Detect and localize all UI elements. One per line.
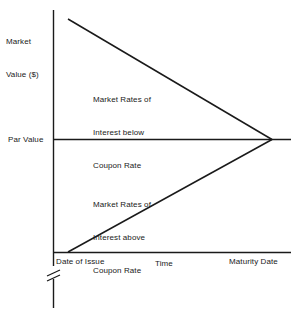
y-axis-title-line1: Market [6,36,39,47]
y-axis-title: Market Value ($) [6,14,39,102]
x-axis-tick-label-end: Maturity Date [229,256,278,267]
annotation-lower-line1: Market Rates of [93,199,151,210]
x-axis-tick-label-start: Date of Issue [56,256,104,267]
axis-break-slash-upper [47,270,60,276]
annotation-rates-below-coupon: Market Rates of Interest below Coupon Ra… [93,72,151,193]
bond-value-chart: Market Value ($) Par Value Market Rates … [0,0,299,314]
annotation-upper-line2: Interest below [93,127,151,138]
annotation-rates-above-coupon: Market Rates of Interest above Coupon Ra… [93,177,151,298]
x-axis-title: Time [155,258,173,269]
par-value-tick-label: Par Value [8,134,43,145]
annotation-upper-line3: Coupon Rate [93,160,151,171]
annotation-upper-line1: Market Rates of [93,94,151,105]
y-axis-title-line2: Value ($) [6,69,39,80]
annotation-lower-line2: Interest above [93,232,151,243]
